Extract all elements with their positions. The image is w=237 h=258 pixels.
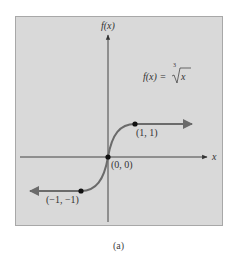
formula-radicand: x (181, 72, 185, 82)
point-label-neg1-neg1: (−1, −1) (46, 195, 79, 205)
formula-lhs: f(x) = (143, 72, 166, 82)
point-label-origin: (0, 0) (111, 160, 133, 170)
x-axis-label: x (212, 152, 216, 162)
figure-caption: (a) (0, 240, 237, 251)
point-origin (105, 154, 110, 159)
formula-root-index: 3 (173, 62, 176, 68)
graph-canvas (0, 0, 237, 258)
point-1-1 (132, 121, 137, 126)
y-axis-label: f(x) (101, 21, 115, 31)
point-neg1-neg1 (78, 188, 83, 193)
point-label-1-1: (1, 1) (136, 128, 158, 138)
